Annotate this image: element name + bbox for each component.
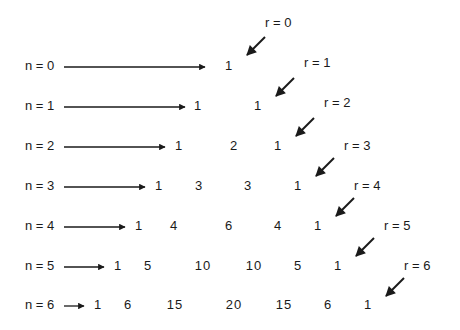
diag-label-r3: r = 3 bbox=[344, 139, 370, 153]
diag-arrow-r2 bbox=[296, 118, 314, 136]
diag-arrow-r6 bbox=[386, 278, 404, 296]
value-n3-r0: 1 bbox=[155, 179, 163, 193]
value-n5-r2: 10 bbox=[195, 259, 211, 273]
diag-arrow-r1 bbox=[276, 78, 294, 96]
diag-arrow-r4 bbox=[336, 198, 354, 216]
value-n4-r1: 4 bbox=[170, 219, 178, 233]
value-n0-r0: 1 bbox=[225, 59, 233, 73]
value-n5-r3: 10 bbox=[246, 259, 262, 273]
value-n3-r2: 3 bbox=[244, 179, 252, 193]
value-n2-r0: 1 bbox=[175, 139, 183, 153]
value-n4-r4: 1 bbox=[314, 219, 322, 233]
value-n6-r1: 6 bbox=[124, 298, 132, 312]
row-label-n6: n = 6 bbox=[25, 298, 54, 312]
value-n4-r0: 1 bbox=[135, 219, 143, 233]
value-n6-r5: 6 bbox=[324, 298, 332, 312]
value-n5-r4: 5 bbox=[294, 259, 302, 273]
diag-arrow-r5 bbox=[356, 238, 374, 256]
arrows-layer bbox=[0, 0, 460, 330]
diag-label-r0: r = 0 bbox=[265, 16, 291, 30]
value-n4-r3: 4 bbox=[274, 219, 282, 233]
value-n4-r2: 6 bbox=[225, 219, 233, 233]
row-label-n4: n = 4 bbox=[25, 219, 54, 233]
value-n3-r3: 1 bbox=[294, 179, 302, 193]
row-label-n5: n = 5 bbox=[25, 259, 54, 273]
value-n2-r1: 2 bbox=[230, 139, 238, 153]
diag-label-r1: r = 1 bbox=[304, 56, 330, 70]
row-label-n0: n = 0 bbox=[25, 59, 54, 73]
value-n6-r4: 15 bbox=[276, 298, 292, 312]
value-n5-r1: 5 bbox=[144, 259, 152, 273]
value-n1-r0: 1 bbox=[194, 99, 202, 113]
diag-label-r4: r = 4 bbox=[354, 179, 380, 193]
row-label-n1: n = 1 bbox=[25, 99, 54, 113]
diag-arrow-r0 bbox=[247, 37, 265, 55]
value-n6-r0: 1 bbox=[94, 298, 102, 312]
value-n3-r1: 3 bbox=[195, 179, 203, 193]
value-n5-r0: 1 bbox=[114, 259, 122, 273]
row-label-n2: n = 2 bbox=[25, 139, 54, 153]
value-n6-r3: 20 bbox=[226, 298, 242, 312]
diag-label-r2: r = 2 bbox=[324, 96, 350, 110]
value-n6-r2: 15 bbox=[167, 298, 183, 312]
row-label-n3: n = 3 bbox=[25, 179, 54, 193]
value-n1-r1: 1 bbox=[254, 99, 262, 113]
value-n5-r5: 1 bbox=[334, 259, 342, 273]
diag-label-r5: r = 5 bbox=[384, 219, 410, 233]
diag-arrow-r3 bbox=[316, 158, 334, 176]
value-n2-r2: 1 bbox=[274, 139, 282, 153]
diag-label-r6: r = 6 bbox=[404, 259, 430, 273]
value-n6-r6: 1 bbox=[364, 298, 372, 312]
